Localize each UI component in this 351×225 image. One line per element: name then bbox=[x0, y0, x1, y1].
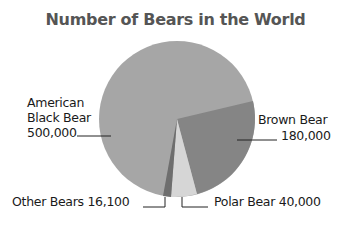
label-black-2: Black Bear bbox=[27, 110, 91, 125]
label-other: Other Bears 16,100 bbox=[12, 194, 129, 209]
leader-polar bbox=[182, 197, 208, 207]
label-brown-value: 180,000 bbox=[281, 128, 331, 143]
label-brown-name: Brown Bear bbox=[258, 112, 327, 127]
leader-other bbox=[143, 197, 165, 207]
label-polar: Polar Bear 40,000 bbox=[214, 194, 321, 209]
label-black-1: American bbox=[27, 95, 84, 110]
label-black-value: 500,000 bbox=[27, 125, 77, 140]
